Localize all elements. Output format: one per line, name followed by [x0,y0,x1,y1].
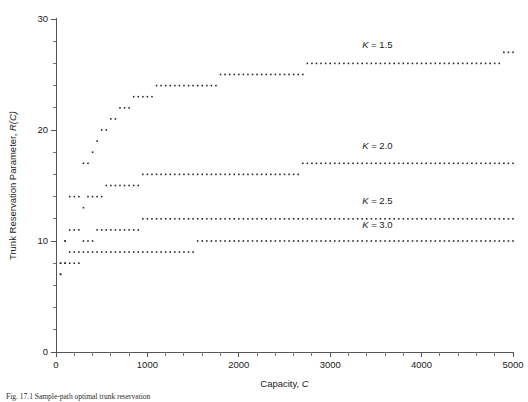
data-point [398,240,400,242]
data-point [476,218,478,220]
data-point [352,218,354,220]
data-point [252,74,254,76]
data-point [160,251,162,253]
data-point [316,240,318,242]
data-point [238,74,240,76]
data-point [137,251,139,253]
data-point [316,63,318,65]
data-point [133,185,135,187]
data-point [293,218,295,220]
data-point [403,63,405,65]
data-point [229,240,231,242]
data-point [265,240,267,242]
data-point [307,240,309,242]
data-point [69,229,71,231]
data-point [179,251,181,253]
data-point [435,218,437,220]
data-point [169,218,171,220]
data-point [439,218,441,220]
data-point [229,174,231,176]
data-point [151,251,153,253]
data-point [224,218,226,220]
data-point [398,218,400,220]
data-point [325,218,327,220]
data-point [316,218,318,220]
data-point [261,174,263,176]
data-point [233,218,235,220]
data-point [137,96,139,98]
data-point [183,85,185,87]
data-point [320,163,322,165]
data-point [238,174,240,176]
data-point [284,218,286,220]
data-point [425,163,427,165]
data-point [252,240,254,242]
data-point [83,251,85,253]
data-point [270,174,272,176]
data-point [201,218,203,220]
data-point [416,240,418,242]
data-point [165,85,167,87]
data-point [494,163,496,165]
data-point [329,163,331,165]
data-point [233,174,235,176]
data-point [224,174,226,176]
data-point [421,63,423,65]
data-point [457,163,459,165]
data-point [293,240,295,242]
data-point [425,63,427,65]
data-point [64,262,66,264]
data-point [206,218,208,220]
data-point [92,196,94,198]
data-point [270,74,272,76]
data-point [448,218,450,220]
data-point [412,63,414,65]
data-point [485,218,487,220]
data-point [115,251,117,253]
data-point [243,174,245,176]
data-point [174,251,176,253]
data-point [489,63,491,65]
data-point [73,262,75,264]
data-point [147,251,149,253]
data-point [421,163,423,165]
data-point [156,218,158,220]
data-point [256,218,258,220]
data-point [69,262,71,264]
data-point [288,218,290,220]
data-point [279,218,281,220]
data-point [211,85,213,87]
data-point [174,218,176,220]
data-point [320,240,322,242]
data-point [128,229,130,231]
x-axis-title: Capacity, C [260,378,309,389]
data-point [393,240,395,242]
data-point [165,251,167,253]
data-point [96,196,98,198]
data-point [188,85,190,87]
data-point [320,63,322,65]
data-point [297,218,299,220]
data-point [453,63,455,65]
data-point [435,163,437,165]
data-point [133,96,135,98]
data-point [179,174,181,176]
data-point [361,63,363,65]
data-point [252,174,254,176]
axis-titles-layer: Capacity, CTrunk Reservation Parameter, … [7,111,309,389]
data-point [416,218,418,220]
data-point [110,251,112,253]
data-point [508,52,510,54]
series-annotations-layer: K = 1.5K = 2.0K = 2.5K = 3.0 [362,39,392,230]
data-point [128,251,130,253]
data-point [124,185,126,187]
data-point [156,174,158,176]
data-point [284,74,286,76]
data-point [371,63,373,65]
x-axis-tick-label: 3000 [320,359,341,370]
data-point [206,174,208,176]
data-point [101,229,103,231]
data-point [403,218,405,220]
series-points [60,163,514,265]
data-point [375,63,377,65]
